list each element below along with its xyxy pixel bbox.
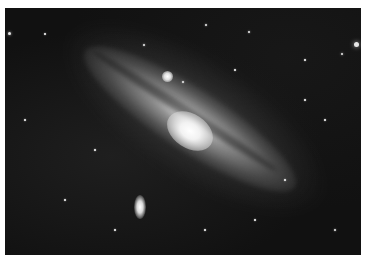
star: [354, 42, 359, 47]
star: [234, 69, 236, 71]
star: [248, 31, 250, 33]
star: [324, 119, 326, 121]
satellite-galaxy-upper: [162, 71, 173, 82]
satellite-galaxy-lower: [134, 195, 146, 219]
star: [205, 24, 207, 26]
star: [284, 179, 286, 181]
star: [114, 229, 116, 231]
star: [94, 149, 96, 151]
star: [304, 99, 306, 101]
star: [44, 33, 46, 35]
galaxy-photo: [5, 8, 361, 255]
star: [143, 44, 145, 46]
star: [8, 32, 11, 35]
star: [64, 199, 66, 201]
star: [24, 119, 26, 121]
star: [334, 229, 336, 231]
star: [254, 219, 256, 221]
star: [182, 81, 184, 83]
star: [204, 229, 206, 231]
star: [304, 59, 306, 61]
